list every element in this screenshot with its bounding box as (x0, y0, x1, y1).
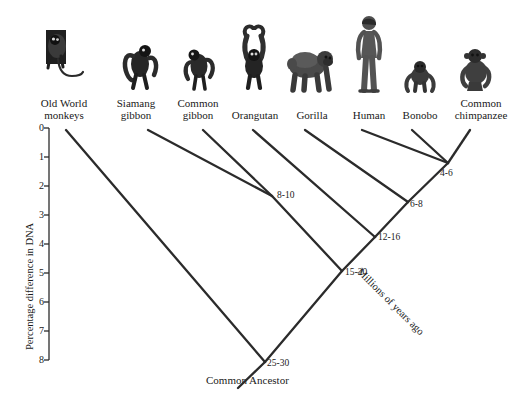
branch-root-to-orangutan-split (265, 271, 342, 362)
phylogenetic-tree-figure: Old World monkeys Siamang gibbon Common … (0, 0, 526, 401)
branch-human-pan-split-stem (408, 163, 448, 202)
branch-siamang-gibbon (148, 130, 272, 196)
branch-orangutan (253, 130, 375, 237)
branch-old-world-monkeys (66, 130, 265, 362)
branch-human (362, 130, 448, 163)
branch-common-gibbon (203, 130, 272, 196)
branch-gorilla-split-stem (375, 202, 408, 237)
branch-gibbon-clade-stem (272, 196, 342, 271)
branch-common-chimpanzee (448, 130, 470, 163)
branch-orangutan-split-stem (342, 237, 375, 271)
branch-root-stem (238, 362, 265, 388)
branch-bonobo (412, 130, 448, 163)
tree-lines (0, 0, 526, 401)
